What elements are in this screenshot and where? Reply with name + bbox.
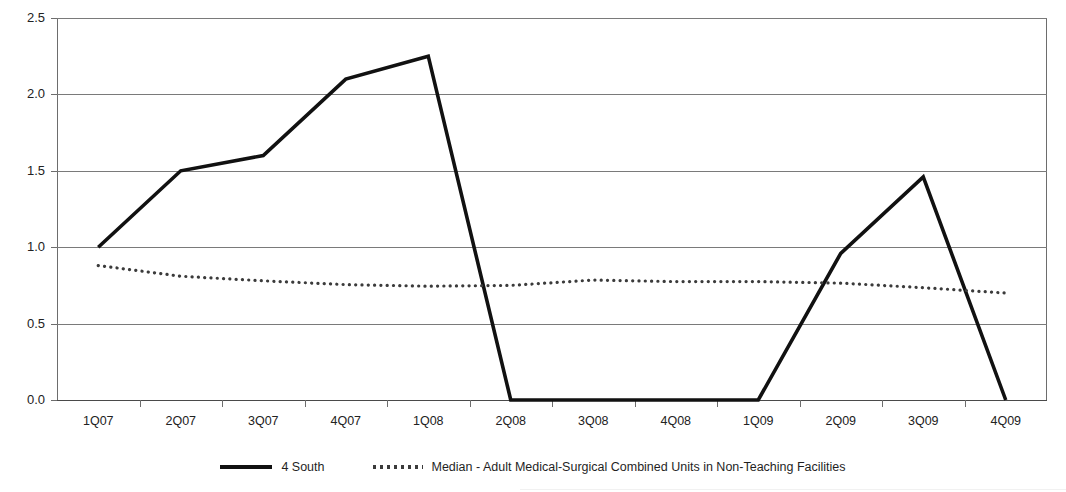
gridline-0.5 — [57, 324, 1047, 325]
x-tick-mark-7 — [635, 400, 636, 407]
gridline-1.5 — [57, 171, 1047, 172]
y-tick-label-1.5: 1.5 — [5, 164, 45, 177]
x-tick-label-1Q08: 1Q08 — [413, 414, 444, 428]
chart-legend: 4 South Median - Adult Medical-Surgical … — [0, 455, 1066, 479]
x-tick-label-4Q08: 4Q08 — [660, 414, 691, 428]
line-chart: 0.00.51.01.52.02.5 1Q072Q073Q074Q071Q082… — [0, 0, 1066, 492]
x-tick-label-3Q08: 3Q08 — [578, 414, 609, 428]
x-tick-label-1Q09: 1Q09 — [743, 414, 774, 428]
legend-label-4-south: 4 South — [281, 460, 324, 474]
x-tick-mark-8 — [717, 400, 718, 407]
gridline-1.0 — [57, 247, 1047, 248]
bottom-divider — [520, 489, 1066, 490]
x-tick-mark-10 — [882, 400, 883, 407]
y-axis-line — [57, 18, 58, 400]
x-tick-label-4Q09: 4Q09 — [990, 414, 1021, 428]
x-tick-mark-11 — [965, 400, 966, 407]
x-tick-label-2Q08: 2Q08 — [495, 414, 526, 428]
plot-right-border — [1046, 18, 1047, 400]
x-tick-mark-2 — [222, 400, 223, 407]
x-tick-label-2Q07: 2Q07 — [165, 414, 196, 428]
legend-item-4-south: 4 South — [220, 460, 324, 474]
gridline-2.0 — [57, 94, 1047, 95]
gridline-2.5 — [57, 18, 1047, 19]
y-tick-label-2.5: 2.5 — [5, 11, 45, 24]
x-tick-mark-4 — [387, 400, 388, 407]
x-tick-mark-6 — [552, 400, 553, 407]
legend-label-median: Median - Adult Medical-Surgical Combined… — [432, 460, 846, 474]
chart-title — [0, 0, 1066, 5]
x-tick-label-3Q09: 3Q09 — [908, 414, 939, 428]
plot-area — [57, 18, 1047, 400]
y-tick-label-0.5: 0.5 — [5, 317, 45, 330]
x-tick-mark-1 — [140, 400, 141, 407]
solid-line-swatch-icon — [220, 465, 272, 469]
x-tick-label-3Q07: 3Q07 — [248, 414, 279, 428]
x-tick-mark-9 — [800, 400, 801, 407]
x-tick-label-2Q09: 2Q09 — [825, 414, 856, 428]
legend-item-median: Median - Adult Medical-Surgical Combined… — [371, 460, 846, 474]
y-tick-label-2.0: 2.0 — [5, 87, 45, 100]
dotted-line-swatch-icon — [371, 465, 423, 469]
x-tick-label-4Q07: 4Q07 — [330, 414, 361, 428]
y-tick-label-1.0: 1.0 — [5, 240, 45, 253]
x-tick-mark-3 — [305, 400, 306, 407]
x-tick-label-1Q07: 1Q07 — [83, 414, 114, 428]
x-tick-mark-5 — [470, 400, 471, 407]
y-tick-label-0.0: 0.0 — [5, 393, 45, 406]
